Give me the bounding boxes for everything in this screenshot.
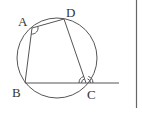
label-D: D — [66, 5, 75, 20]
segment-AB — [25, 28, 32, 83]
label-A: A — [18, 14, 28, 29]
angle-C-interior-arc-2 — [82, 79, 85, 83]
label-B: B — [12, 85, 21, 100]
segment-DC — [64, 19, 86, 83]
circumcircle — [17, 18, 97, 98]
label-C: C — [87, 87, 96, 102]
cyclic-quadrilateral-diagram: A D B C — [0, 0, 142, 113]
